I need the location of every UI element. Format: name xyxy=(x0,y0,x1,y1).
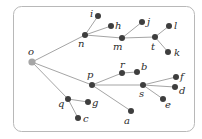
edge-m-t xyxy=(122,37,155,38)
node-l xyxy=(166,23,172,29)
node-label-j: j xyxy=(145,16,150,27)
node-k xyxy=(165,49,171,55)
node-label-g: g xyxy=(92,97,98,108)
edge-n-m xyxy=(85,35,122,38)
edge-q-c xyxy=(68,99,78,118)
node-label-d: d xyxy=(179,85,185,96)
node-j xyxy=(139,19,145,25)
node-f xyxy=(173,74,179,80)
edge-layer xyxy=(32,16,176,118)
node-label-r: r xyxy=(120,59,126,70)
node-label-o: o xyxy=(28,46,34,57)
node-q xyxy=(65,96,71,102)
node-label-e: e xyxy=(165,99,171,110)
edge-s-d xyxy=(143,85,175,87)
edge-q-g xyxy=(68,99,88,102)
node-a xyxy=(128,108,134,114)
node-label-h: h xyxy=(115,20,121,31)
node-label-k: k xyxy=(174,47,180,58)
node-h xyxy=(108,23,114,29)
node-label-s: s xyxy=(139,88,144,99)
node-p xyxy=(89,82,95,88)
node-r xyxy=(119,70,125,76)
edge-p-r xyxy=(92,73,122,85)
edge-m-j xyxy=(122,22,142,38)
node-i xyxy=(95,13,101,19)
edge-o-p xyxy=(32,62,92,85)
node-o xyxy=(28,58,35,65)
node-label-t: t xyxy=(151,41,156,52)
edge-n-h xyxy=(85,26,111,35)
node-c xyxy=(75,115,81,121)
edge-o-q xyxy=(32,62,68,99)
node-label-c: c xyxy=(83,113,89,124)
edge-s-e xyxy=(143,85,163,99)
node-label-a: a xyxy=(124,115,130,126)
node-label-i: i xyxy=(90,8,93,19)
edge-s-f xyxy=(143,77,176,85)
label-layer: onihmjtlkprbsfdeaqgc xyxy=(28,8,186,126)
node-label-l: l xyxy=(174,20,177,31)
node-label-b: b xyxy=(141,61,147,72)
node-label-p: p xyxy=(87,69,94,80)
node-label-m: m xyxy=(113,41,122,52)
node-d xyxy=(172,84,178,90)
node-label-q: q xyxy=(58,98,64,109)
node-label-f: f xyxy=(179,71,186,82)
node-g xyxy=(85,99,91,105)
node-layer xyxy=(28,13,179,121)
node-b xyxy=(134,69,140,75)
tree-diagram: onihmjtlkprbsfdeaqgc xyxy=(0,0,202,139)
node-label-n: n xyxy=(78,38,84,49)
node-t xyxy=(152,34,158,40)
